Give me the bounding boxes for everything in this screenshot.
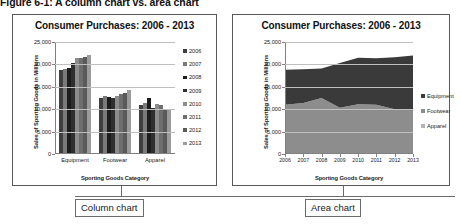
gridline bbox=[285, 42, 413, 43]
y-tick-label: 10,000 bbox=[34, 106, 51, 112]
bar-group-equipment bbox=[59, 42, 91, 154]
y-tick-label: 20,000 bbox=[264, 61, 281, 67]
y-tick-mark bbox=[52, 132, 55, 133]
gridline bbox=[55, 42, 175, 43]
legend-swatch bbox=[183, 115, 187, 119]
column-chart-legend: 20062007200820092010201120122013 bbox=[183, 48, 201, 154]
y-tick-mark bbox=[52, 64, 55, 65]
column-chart-x-axis-label: Sporting Goods Category bbox=[81, 175, 149, 181]
y-tick-label: 25,000 bbox=[264, 39, 281, 45]
x-tick-label: Equipment bbox=[61, 157, 89, 163]
legend-swatch bbox=[421, 124, 425, 128]
x-tick-label: 2009 bbox=[334, 157, 346, 163]
y-tick-mark bbox=[52, 87, 55, 88]
gridline bbox=[55, 64, 175, 65]
area-chart-panel: Consumer Purchases: 2006 - 2013 Sales of… bbox=[232, 14, 450, 186]
gridline bbox=[285, 87, 413, 88]
legend-label: 2009 bbox=[189, 88, 201, 94]
area-chart-y-axis-label: Sales of Sporting Goods in Millions bbox=[263, 55, 269, 149]
legend-item: 2013 bbox=[183, 140, 201, 146]
y-tick-label: 0 bbox=[48, 151, 51, 157]
y-tick-mark bbox=[282, 64, 285, 65]
legend-label: 2010 bbox=[189, 101, 201, 107]
legend-label: 2012 bbox=[189, 127, 201, 133]
y-tick-label: 15,000 bbox=[264, 84, 281, 90]
y-tick-label: 5,000 bbox=[267, 129, 281, 135]
figure-container: Figure 6-1: A column chart vs. area char… bbox=[0, 0, 461, 224]
legend-label: Footwear bbox=[427, 108, 450, 114]
bar-group-footwear bbox=[99, 42, 131, 154]
gridline bbox=[285, 109, 413, 110]
y-tick-label: 20,000 bbox=[34, 61, 51, 67]
y-tick-mark bbox=[282, 87, 285, 88]
legend-swatch bbox=[421, 109, 425, 113]
legend-swatch bbox=[183, 142, 187, 146]
legend-item: Equipment bbox=[421, 93, 454, 99]
area-chart-callout: Area chart bbox=[305, 199, 361, 217]
legend-label: Apparel bbox=[427, 123, 446, 129]
legend-item: 2009 bbox=[183, 88, 201, 94]
legend-item: 2011 bbox=[183, 114, 201, 120]
legend-swatch bbox=[183, 89, 187, 93]
x-tick-label: 2007 bbox=[298, 157, 310, 163]
legend-item: 2008 bbox=[183, 74, 201, 80]
gridline bbox=[285, 132, 413, 133]
legend-swatch bbox=[183, 62, 187, 66]
x-tick-label: Footwear bbox=[103, 157, 127, 163]
bar-group-apparel bbox=[139, 42, 171, 154]
y-tick-mark bbox=[52, 154, 55, 155]
legend-item: Footwear bbox=[421, 108, 454, 114]
gridline bbox=[285, 64, 413, 65]
legend-item: 2007 bbox=[183, 61, 201, 67]
gridline bbox=[55, 87, 175, 88]
legend-swatch bbox=[183, 76, 187, 80]
x-tick-label: 2008 bbox=[316, 157, 328, 163]
legend-item: 2006 bbox=[183, 48, 201, 54]
legend-item: Apparel bbox=[421, 123, 454, 129]
y-tick-mark bbox=[282, 109, 285, 110]
area-chart-legend: EquipmentFootwearApparel bbox=[421, 93, 454, 138]
column-chart-panel: Consumer Purchases: 2006 - 2013 Sales of… bbox=[12, 14, 217, 186]
gridline bbox=[55, 132, 175, 133]
x-tick-label: Apparel bbox=[145, 157, 165, 163]
x-tick-label: 2012 bbox=[389, 157, 401, 163]
column-chart-y-axis bbox=[55, 42, 56, 154]
bar bbox=[127, 90, 131, 154]
legend-swatch bbox=[183, 49, 187, 53]
legend-label: 2007 bbox=[189, 61, 201, 67]
bar bbox=[87, 55, 91, 154]
legend-item: 2012 bbox=[183, 127, 201, 133]
area-callout-leader-vertical bbox=[343, 186, 344, 197]
y-tick-mark bbox=[282, 132, 285, 133]
y-tick-label: 25,000 bbox=[34, 39, 51, 45]
y-tick-mark bbox=[282, 42, 285, 43]
area-chart-plot-area: 05,00010,00015,00020,00025,000 bbox=[285, 42, 413, 154]
legend-label: Equipment bbox=[427, 93, 454, 99]
area-chart-svg bbox=[285, 42, 413, 154]
x-tick-label: 2011 bbox=[371, 157, 382, 163]
legend-label: 2013 bbox=[189, 140, 201, 146]
x-tick-label: 2010 bbox=[352, 157, 364, 163]
legend-label: 2008 bbox=[189, 74, 201, 80]
gridline bbox=[55, 109, 175, 110]
legend-swatch bbox=[421, 94, 425, 98]
area-chart-y-axis bbox=[285, 42, 286, 154]
column-chart-title: Consumer Purchases: 2006 - 2013 bbox=[13, 20, 216, 31]
legend-item: 2010 bbox=[183, 101, 201, 107]
x-tick-label: 2013 bbox=[407, 157, 419, 163]
legend-label: 2011 bbox=[189, 114, 201, 120]
y-tick-label: 10,000 bbox=[264, 106, 281, 112]
column-chart-x-axis bbox=[55, 153, 175, 154]
legend-swatch bbox=[183, 128, 187, 132]
y-tick-label: 5,000 bbox=[37, 129, 51, 135]
y-tick-mark bbox=[52, 109, 55, 110]
legend-label: 2006 bbox=[189, 48, 201, 54]
y-tick-mark bbox=[52, 42, 55, 43]
area-chart-title: Consumer Purchases: 2006 - 2013 bbox=[233, 20, 449, 31]
area-chart-x-axis-label: Sporting Goods Category bbox=[315, 175, 383, 181]
figure-caption: Figure 6-1: A column chart vs. area char… bbox=[0, 0, 199, 8]
column-chart-plot-area: 05,00010,00015,00020,00025,000 bbox=[55, 42, 175, 154]
column-chart-callout: Column chart bbox=[75, 199, 144, 217]
x-tick-label: 2006 bbox=[279, 157, 291, 163]
column-chart-y-axis-label: Sales of Sporting Goods in Millions bbox=[33, 55, 39, 149]
